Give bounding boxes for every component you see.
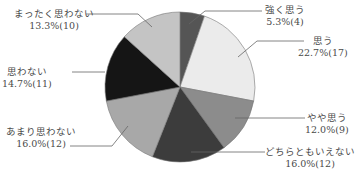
label-name: あまり思わない — [6, 126, 76, 138]
label-name: 思う — [298, 35, 348, 47]
pie-slices — [105, 12, 255, 162]
label-name: やや思う — [305, 112, 349, 124]
label-value: 12.0%(9) — [305, 124, 349, 136]
label-value: 5.3%(4) — [265, 16, 305, 28]
label-name: 強く思う — [265, 4, 305, 16]
label-name: 思わない — [2, 66, 52, 78]
label-value: 16.0%(12) — [265, 158, 355, 170]
label-value: 16.0%(12) — [6, 138, 76, 150]
label-neutral: どちらともいえない 16.0%(12) — [265, 146, 355, 170]
label-strong-agree: 強く思う 5.3%(4) — [265, 4, 305, 28]
label-value: 22.7%(17) — [298, 47, 348, 59]
label-agree: 思う 22.7%(17) — [298, 35, 348, 59]
label-value: 14.7%(11) — [2, 78, 52, 90]
label-name: まったく思わない — [14, 8, 94, 20]
label-strongly-disagree: まったく思わない 13.3%(10) — [14, 8, 94, 32]
label-somewhat-agree: やや思う 12.0%(9) — [305, 112, 349, 136]
label-disagree: 思わない 14.7%(11) — [2, 66, 52, 90]
label-name: どちらともいえない — [265, 146, 355, 158]
label-value: 13.3%(10) — [14, 20, 94, 32]
label-somewhat-disagree: あまり思わない 16.0%(12) — [6, 126, 76, 150]
